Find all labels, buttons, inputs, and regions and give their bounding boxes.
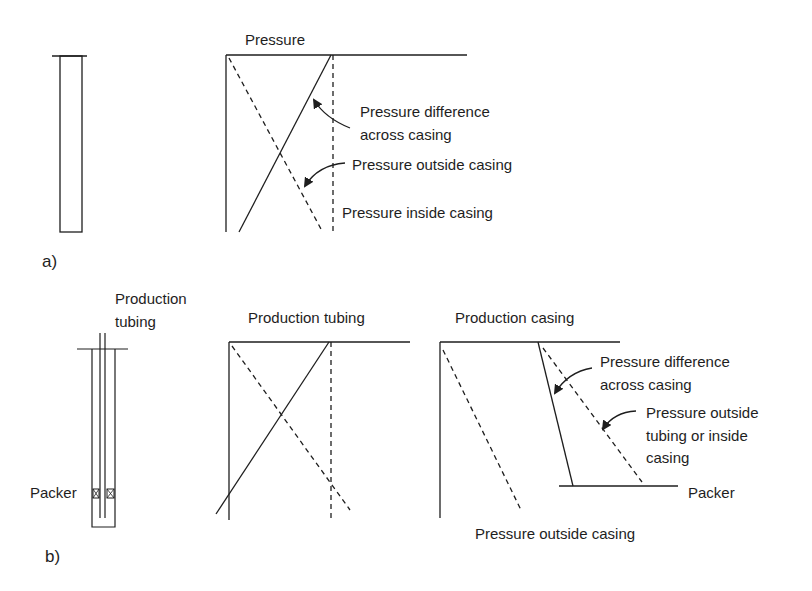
casing-plot-title: Production casing [455,309,574,327]
arrow-outside-icon [305,163,345,186]
label-outside-casing: Pressure outside casing [352,156,512,174]
label-inside-casing: Pressure inside casing [342,204,493,222]
arrow-difference-icon [314,100,350,128]
panel-b-tag: b) [45,548,60,566]
casing-string [60,56,82,232]
panel-a-plot-title: Pressure [245,31,305,49]
pressure-outside-casing-line [443,350,521,510]
casing-label-packer: Packer [688,484,735,502]
packer-label: Packer [30,484,77,502]
packer-icon [93,489,114,498]
arrow-outside-tubing-icon [603,411,636,429]
panel-b-tubing-plot [216,342,410,520]
casing-label-outside-tubing-line3: casing [646,449,689,467]
well-label-line2: tubing [115,313,156,331]
casing-label-difference-line2: across casing [600,376,692,394]
panel-a-well-schematic [52,56,87,232]
production-casing [92,349,115,527]
tubing-plot-title: Production tubing [248,309,365,327]
pressure-outside-line [232,346,350,510]
casing-label-outside-tubing-line1: Pressure outside [646,404,759,422]
pressure-difference-line [538,342,573,486]
pressure-difference-line [216,342,329,514]
casing-label-outside-casing: Pressure outside casing [475,525,635,543]
panel-a-tag: a) [42,253,57,271]
well-label-line1: Production [115,290,187,308]
panel-b-well-schematic [77,333,128,527]
pressure-outside-line [229,58,321,229]
casing-label-difference-line1: Pressure difference [600,353,730,371]
casing-label-outside-tubing-line2: tubing or inside [646,427,748,445]
pressure-difference-line [239,55,331,232]
label-difference-line1: Pressure difference [360,103,490,121]
label-difference-line2: across casing [360,126,452,144]
